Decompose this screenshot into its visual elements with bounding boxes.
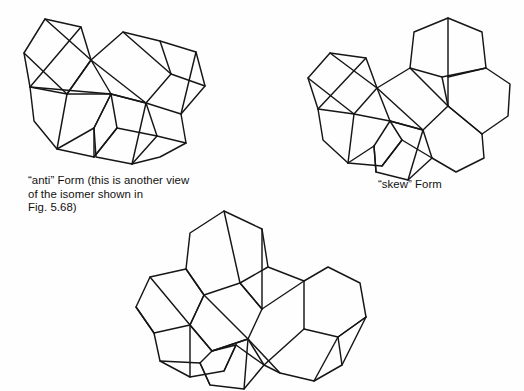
bond-path bbox=[342, 317, 366, 365]
bond-path bbox=[136, 307, 154, 333]
bond-path bbox=[448, 106, 482, 134]
bond-path bbox=[91, 32, 171, 103]
bond-path bbox=[264, 329, 304, 365]
bond-path bbox=[157, 136, 186, 143]
bond-path bbox=[374, 146, 376, 172]
bond-path bbox=[240, 283, 262, 309]
bond-path bbox=[382, 140, 402, 166]
bottom-form-structure bbox=[128, 205, 400, 391]
bond-path bbox=[117, 128, 157, 136]
figure-canvas: “anti” Form (this is another view of the… bbox=[0, 0, 524, 391]
bond-path bbox=[448, 68, 510, 134]
skew-form-caption: “skew” Form bbox=[378, 178, 524, 192]
bond-path bbox=[244, 339, 248, 389]
skew-form-structure bbox=[296, 6, 524, 181]
bond-path bbox=[268, 267, 366, 337]
anti-form-structure bbox=[0, 0, 240, 185]
bond-path bbox=[190, 325, 212, 351]
bond-path bbox=[30, 27, 81, 87]
bond-path bbox=[224, 345, 236, 371]
bond-path bbox=[200, 351, 212, 363]
bond-path bbox=[348, 114, 354, 163]
anti-form-caption: “anti” Form (this is another view of the… bbox=[28, 174, 268, 215]
bond-path bbox=[30, 87, 117, 157]
bond-path bbox=[94, 128, 117, 157]
bond-path bbox=[150, 277, 190, 325]
bond-path bbox=[262, 281, 304, 309]
bond-path bbox=[248, 339, 280, 373]
bond-path bbox=[204, 295, 248, 339]
bond-path bbox=[67, 60, 91, 94]
bond-path bbox=[432, 134, 484, 172]
bond-path bbox=[374, 121, 390, 146]
bond-path bbox=[57, 94, 67, 149]
bond-path bbox=[160, 361, 200, 363]
bond-path bbox=[236, 345, 264, 365]
bond-path bbox=[186, 269, 204, 295]
bond-path bbox=[318, 58, 366, 109]
bond-path bbox=[354, 114, 390, 121]
bond-path bbox=[132, 114, 186, 164]
bond-path bbox=[348, 146, 374, 163]
bond-path bbox=[94, 94, 111, 128]
bond-path bbox=[224, 211, 240, 283]
bond-path bbox=[57, 128, 94, 149]
